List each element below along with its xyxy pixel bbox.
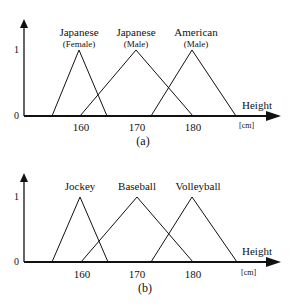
x-axis-arrow-icon — [266, 111, 281, 121]
x-tick-170: 170 — [129, 268, 146, 280]
triangle-japanese-female — [52, 50, 107, 116]
series-label-line2: (Male) — [116, 38, 155, 50]
triangle-baseball — [81, 197, 193, 262]
panel-b-series — [52, 197, 237, 262]
x-axis-arrow-icon — [266, 257, 281, 267]
x-axis-label: Height — [242, 99, 272, 111]
series-label-japanese-female: Japanese (Female) — [59, 26, 98, 50]
x-axis-unit: [cm] — [241, 268, 256, 277]
series-label-line2: (Female) — [59, 38, 98, 50]
triangle-american-male — [151, 50, 236, 116]
triangle-jockey — [52, 197, 108, 262]
y-tick-1: 1 — [14, 44, 19, 55]
panel-a-series — [52, 50, 236, 116]
caption-a: (a) — [136, 134, 149, 149]
x-axis-unit: [cm] — [239, 121, 254, 130]
triangle-japanese-male — [80, 50, 193, 116]
y-tick-0: 0 — [14, 256, 19, 267]
series-label-japanese-male: Japanese (Male) — [116, 26, 155, 50]
series-label-baseball: Baseball — [118, 180, 156, 192]
series-label-american-male: American (Male) — [174, 26, 217, 50]
series-label-line2: (Male) — [174, 38, 217, 50]
x-tick-180: 180 — [185, 121, 202, 133]
series-label-line1: Japanese — [116, 26, 155, 38]
series-label-line1: American — [174, 26, 217, 38]
x-tick-180: 180 — [185, 268, 202, 280]
x-tick-170: 170 — [129, 121, 146, 133]
y-axis-arrow-icon — [20, 173, 28, 182]
y-tick-0: 0 — [14, 110, 19, 121]
series-label-volleyball: Volleyball — [175, 180, 220, 192]
y-tick-1: 1 — [14, 191, 19, 202]
x-axis-label: Height — [242, 245, 272, 257]
series-label-line1: Japanese — [59, 26, 98, 38]
caption-b: (b) — [138, 281, 152, 296]
y-axis-arrow-icon — [20, 19, 28, 28]
triangle-volleyball — [151, 197, 237, 262]
x-tick-160: 160 — [73, 121, 90, 133]
x-tick-160: 160 — [74, 268, 91, 280]
series-label-jockey: Jockey — [65, 180, 96, 192]
